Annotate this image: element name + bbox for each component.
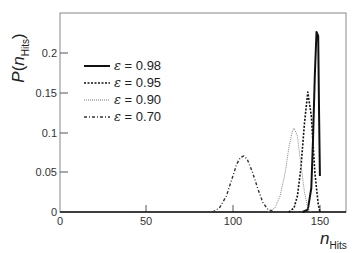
series-line-0 [303, 32, 320, 212]
svg-text:ε = 0.90: ε = 0.90 [114, 92, 161, 107]
y-axis-label: P(nHits) [9, 33, 31, 82]
x-axis-label: nHits [320, 229, 347, 251]
y-tick-label: 0.15 [36, 87, 57, 99]
series-layer [213, 32, 320, 212]
chart: 0 0.05 0.1 0.15 0.2 0 50 100 150 P(nHits… [0, 0, 360, 253]
svg-text:ε = 0.98: ε = 0.98 [114, 58, 161, 73]
legend-item: ε = 0.95 [84, 75, 161, 90]
legend-item: ε = 0.70 [84, 109, 161, 124]
x-tick-label: 100 [224, 215, 242, 227]
plot-frame [60, 13, 346, 212]
series-line-3 [213, 156, 275, 212]
x-tick-label: 150 [311, 215, 329, 227]
svg-text:ε = 0.70: ε = 0.70 [114, 109, 161, 124]
legend: ε = 0.98 ε = 0.95 ε = 0.90 ε = 0.70 [84, 58, 161, 124]
y-tick-label: 0.1 [42, 127, 57, 139]
y-tick-label: 0.2 [42, 47, 57, 59]
x-tick-label: 0 [57, 215, 63, 227]
legend-item: ε = 0.90 [84, 92, 161, 107]
x-tick-label: 50 [140, 215, 152, 227]
series-line-1 [289, 92, 320, 212]
y-tick-label: 0.05 [36, 166, 57, 178]
y-axis [60, 53, 68, 172]
svg-text:P(nHits): P(nHits) [9, 33, 31, 82]
legend-item: ε = 0.98 [84, 58, 161, 73]
series-line-2 [268, 128, 311, 212]
svg-text:ε = 0.95: ε = 0.95 [114, 75, 161, 90]
